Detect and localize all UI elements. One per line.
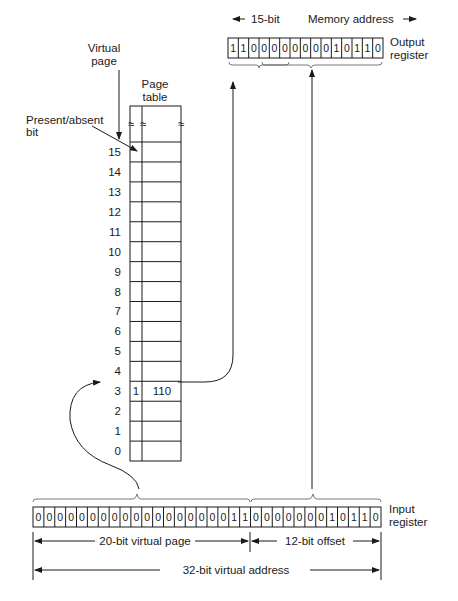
offset-input-brace bbox=[251, 494, 381, 502]
address-dimension: 32-bit virtual address bbox=[35, 564, 379, 576]
bit-cell: 1 bbox=[329, 511, 335, 523]
bit-cell: 0 bbox=[282, 42, 288, 54]
bit-cell: 0 bbox=[210, 511, 216, 523]
bit-cell: 0 bbox=[251, 42, 257, 54]
bit-cell: 0 bbox=[177, 511, 183, 523]
page-index: 3 bbox=[115, 385, 121, 397]
page-index: 4 bbox=[115, 365, 122, 377]
page-table-row: 0 bbox=[115, 445, 121, 457]
input-register-label-2: register bbox=[389, 516, 428, 528]
page-table-row: 7 bbox=[115, 305, 121, 317]
present-absent-label-2: bit bbox=[26, 126, 39, 138]
page-index: 2 bbox=[115, 405, 121, 417]
page-index: 15 bbox=[108, 146, 121, 158]
bit-cell: 0 bbox=[318, 511, 324, 523]
page-index: 0 bbox=[115, 445, 121, 457]
output-register: 110000000010110 bbox=[228, 38, 383, 58]
bit-cell: 0 bbox=[123, 511, 129, 523]
bit-cell: 0 bbox=[166, 511, 172, 523]
input-register-label-1: Input bbox=[389, 503, 415, 515]
bit-cell: 0 bbox=[36, 511, 42, 523]
bit-cell: 1 bbox=[241, 42, 247, 54]
page-index: 7 bbox=[115, 305, 121, 317]
bit-cell: 0 bbox=[373, 511, 379, 523]
break-icon: ≈ bbox=[140, 118, 146, 130]
page-table-row: 5 bbox=[115, 345, 121, 357]
bit-cell: 0 bbox=[297, 511, 303, 523]
page-table: ≈ ≈ ≈ 15141312111098765431110210 bbox=[108, 106, 184, 461]
page-table-row: 1 bbox=[115, 425, 121, 437]
memory-address-label: Memory address bbox=[308, 13, 394, 25]
bit-cell: 0 bbox=[90, 511, 96, 523]
bit-cell: 0 bbox=[112, 511, 118, 523]
page-table-row: 9 bbox=[115, 266, 121, 278]
page-frame: 110 bbox=[153, 385, 171, 397]
virtual-page-label-2: page bbox=[91, 55, 117, 67]
bit-cell: 0 bbox=[155, 511, 161, 523]
page-table-row: 8 bbox=[115, 286, 121, 298]
bit-cell: 1 bbox=[354, 42, 360, 54]
page-table-row: 2 bbox=[115, 405, 121, 417]
bit-cell: 0 bbox=[220, 511, 226, 523]
offset-12bit-label: 12-bit offset bbox=[285, 535, 346, 547]
page-dimension: 20-bit virtual page bbox=[35, 535, 248, 547]
bit-cell: 0 bbox=[286, 511, 292, 523]
page-index: 5 bbox=[115, 345, 121, 357]
bit-cell: 0 bbox=[313, 42, 319, 54]
bit-cell: 0 bbox=[264, 511, 270, 523]
bit-cell: 0 bbox=[275, 511, 281, 523]
bit-cell: 0 bbox=[46, 511, 52, 523]
bit-cell: 1 bbox=[230, 42, 236, 54]
bit-cell: 0 bbox=[133, 511, 139, 523]
output-register-header: 15-bit Memory address bbox=[233, 13, 416, 25]
present-absent-label-1: Present/absent bbox=[26, 114, 104, 126]
bit-cell: 1 bbox=[334, 42, 340, 54]
page-index: 11 bbox=[109, 226, 121, 238]
page-index: 14 bbox=[108, 166, 121, 178]
virtual-page-label-1: Virtual bbox=[88, 42, 120, 54]
bit-cell: 0 bbox=[307, 511, 313, 523]
page-table-row: 14 bbox=[108, 166, 121, 178]
bit-cell: 0 bbox=[253, 511, 259, 523]
present-bit: 1 bbox=[133, 385, 139, 397]
bit-cell: 0 bbox=[101, 511, 107, 523]
page-table-row: 11 bbox=[109, 226, 121, 238]
page-index: 8 bbox=[115, 286, 121, 298]
bit-cell: 0 bbox=[199, 511, 205, 523]
frame-to-output-arrow bbox=[178, 82, 233, 382]
page-index: 6 bbox=[115, 325, 121, 337]
page-index: 1 bbox=[115, 425, 121, 437]
offset-brace bbox=[262, 62, 382, 68]
bit-cell: 0 bbox=[68, 511, 74, 523]
bit-cell: 0 bbox=[144, 511, 150, 523]
paging-diagram: 15-bit Memory address 110000000010110 Ou… bbox=[0, 0, 458, 601]
bit-cell: 0 bbox=[272, 42, 278, 54]
input-register: 00000000000000000011000000010110 bbox=[33, 507, 381, 527]
bit-cell: 0 bbox=[79, 511, 85, 523]
page-table-row: 12 bbox=[108, 206, 121, 218]
bit-cell: 1 bbox=[362, 511, 368, 523]
bit-cell: 1 bbox=[231, 511, 237, 523]
bit-cell: 0 bbox=[340, 511, 346, 523]
output-register-label-1: Output bbox=[390, 36, 425, 48]
page-table-row: 6 bbox=[115, 325, 121, 337]
bits-15-label: 15-bit bbox=[251, 13, 281, 25]
page-brace bbox=[33, 494, 250, 502]
page-index: 12 bbox=[108, 206, 121, 218]
bit-cell: 0 bbox=[344, 42, 350, 54]
virtual-page-20bit-label: 20-bit virtual page bbox=[99, 535, 190, 547]
bit-cell: 0 bbox=[375, 42, 381, 54]
bit-cell: 0 bbox=[292, 42, 298, 54]
bit-cell: 0 bbox=[188, 511, 194, 523]
page-table-row: 31110 bbox=[115, 385, 172, 397]
bit-cell: 1 bbox=[242, 511, 248, 523]
page-table-row: 15 bbox=[108, 146, 121, 158]
bit-cell: 0 bbox=[261, 42, 267, 54]
offset-dimension: 12-bit offset bbox=[252, 535, 379, 547]
page-index: 9 bbox=[115, 266, 121, 278]
page-table-row: 10 bbox=[108, 246, 121, 258]
bit-cell: 0 bbox=[303, 42, 309, 54]
bit-cell: 0 bbox=[57, 511, 63, 523]
page-table-label-2: table bbox=[143, 91, 168, 103]
virtual-address-32bit-label: 32-bit virtual address bbox=[183, 564, 290, 576]
